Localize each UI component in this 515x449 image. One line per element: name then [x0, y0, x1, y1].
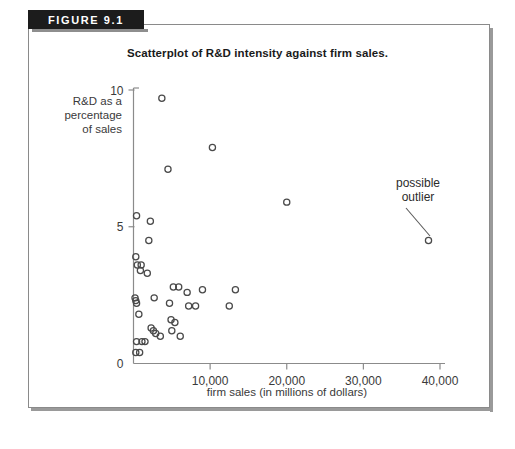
data-point — [146, 237, 152, 243]
data-point — [186, 303, 192, 309]
data-point — [209, 144, 215, 150]
data-point-group — [132, 95, 432, 356]
data-point — [184, 289, 190, 295]
y-axis-caption-line3: of sales — [82, 123, 122, 135]
data-point — [133, 213, 139, 219]
x-axis-caption: firm sales (in millions of dollars) — [207, 386, 368, 398]
data-point — [136, 311, 142, 317]
data-point — [147, 218, 153, 224]
y-tick-label-0: 0 — [117, 357, 124, 371]
y-tick-label-5: 5 — [117, 220, 124, 234]
data-point — [159, 95, 165, 101]
annotation-leader-line — [406, 208, 430, 236]
x-tick-label-40000: 40,000 — [422, 374, 459, 388]
annotation-possible-outlier-line1: possible — [396, 176, 440, 190]
data-point — [232, 287, 238, 293]
data-point — [199, 287, 205, 293]
scatterplot-canvas: 0510 10,00020,00030,00040,000 R&D as a p… — [0, 0, 515, 449]
annotation-possible-outlier-line2: outlier — [402, 190, 435, 204]
data-point — [144, 270, 150, 276]
data-point — [177, 333, 183, 339]
data-point — [151, 295, 157, 301]
data-point — [192, 303, 198, 309]
scatterplot: 0510 10,00020,00030,00040,000 R&D as a p… — [0, 0, 515, 449]
axis-group — [129, 88, 446, 370]
y-axis-caption-line2: percentage — [64, 109, 122, 121]
data-point — [166, 300, 172, 306]
data-point — [226, 303, 232, 309]
data-point — [137, 349, 143, 355]
data-point — [165, 166, 171, 172]
data-point — [169, 328, 175, 334]
data-point — [284, 199, 290, 205]
y-axis-caption-line1: R&D as a — [73, 95, 123, 107]
data-point — [425, 237, 431, 243]
